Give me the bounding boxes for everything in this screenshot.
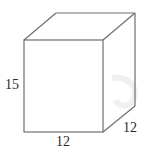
width-label: 12 bbox=[56, 134, 70, 148]
front-face bbox=[24, 40, 103, 132]
watermark-icon bbox=[112, 78, 135, 106]
depth-label: 12 bbox=[123, 120, 137, 135]
top-left-depth-edge bbox=[24, 13, 56, 40]
top-right-depth-edge bbox=[103, 13, 135, 40]
rectangular-prism-diagram: 15 12 12 bbox=[0, 0, 145, 148]
height-label: 15 bbox=[5, 77, 19, 92]
